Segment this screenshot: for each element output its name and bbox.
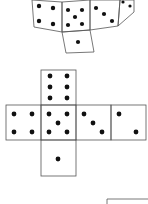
folded-cube-view [32,0,134,53]
folded-pips [37,0,132,44]
net-face-row-2 [111,105,146,140]
net-face-row-4 [6,105,41,140]
folded-face-left-4 [32,0,62,32]
dice-diagram [0,0,148,204]
answer-box-partial [107,199,148,204]
net-pips [12,74,139,162]
cube-net [6,70,146,176]
net-face-top-6 [41,70,76,105]
folded-face-far-right-2 [118,0,134,26]
